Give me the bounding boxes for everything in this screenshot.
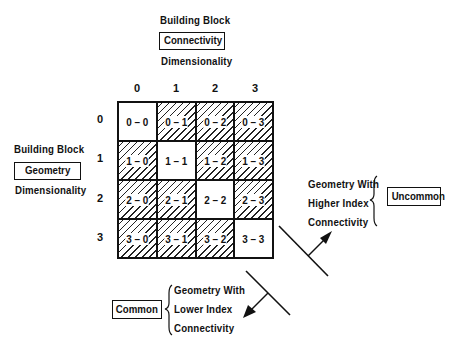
uncommon-label: Uncommon (392, 188, 445, 204)
upper-annotation-line3: Connectivity (308, 216, 368, 228)
upper-annotation-line2: Higher Index (308, 197, 369, 209)
lower-annotation-line1: Geometry With (174, 284, 245, 296)
upper-annotation-line1: Geometry With (308, 178, 379, 190)
lower-brace (165, 285, 172, 335)
lower-arrow-shaft (250, 293, 268, 311)
common-box: Common (112, 300, 162, 319)
lower-annotation-line3: Connectivity (174, 322, 234, 334)
uncommon-box: Uncommon (387, 187, 441, 206)
upper-divider-line (279, 226, 328, 276)
common-label: Common (116, 301, 158, 317)
lower-annotation-line2: Lower Index (174, 303, 232, 315)
